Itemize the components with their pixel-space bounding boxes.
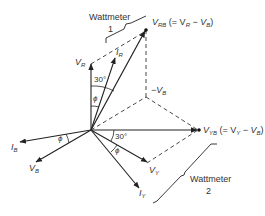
wattmeter2-text: Wattmeter: [190, 174, 231, 184]
vyb-sub: YB: [209, 130, 217, 136]
neg-vb-phasor: [91, 97, 146, 130]
vyb-dot: [197, 128, 201, 132]
phi-right-label: ϕ: [115, 147, 119, 155]
arc-phi-left: [66, 134, 69, 143]
vrb-eq-sub1: R: [186, 22, 190, 28]
vyb-label: VYB (= VY − VB): [203, 126, 264, 135]
vb-sub: B: [35, 168, 39, 174]
angle-30-top-label: 30°: [94, 76, 106, 84]
vb-label: VB: [29, 164, 39, 173]
wattmeter2-number: 2: [206, 187, 211, 196]
ib-sub: B: [14, 147, 18, 153]
phi-left-label: ϕ: [58, 135, 62, 143]
vyb-eq-sub1: Y: [236, 130, 240, 136]
vy-sub: Y: [155, 170, 159, 176]
vrb-eq-sub2: B: [206, 22, 210, 28]
vrb-eq-mid: − V: [190, 17, 206, 27]
vrb-label: VRB (= VR − VB): [152, 18, 213, 27]
phi-top-text: ϕ: [93, 94, 97, 103]
neg-vb-label: −VB: [151, 86, 166, 95]
vy-label: VY: [149, 166, 159, 175]
vyb-eq-close: ): [261, 125, 264, 135]
iy-sub: Y: [142, 193, 146, 199]
phi-left-text: ϕ: [58, 134, 62, 143]
arc-30-right: [111, 130, 114, 141]
vyb-eq-sub2: B: [257, 130, 261, 136]
wattmeter1-text: Wattmeter: [89, 12, 130, 22]
vr-label: VR: [75, 58, 85, 67]
angle-30-right-label: 30°: [115, 133, 127, 141]
vyb-eq-mid: − V: [240, 125, 256, 135]
wattmeter1-label: Wattmeter: [89, 13, 130, 22]
vrb-eq-close: ): [210, 17, 213, 27]
angle-30-top-text: 30°: [94, 75, 106, 84]
neg-vb-sub: B: [162, 90, 166, 96]
phi-top-label: ϕ: [93, 95, 97, 103]
wattmeter2-label: Wattmeter: [190, 175, 231, 184]
ib-label: IB: [11, 143, 18, 152]
vr-sub: R: [81, 62, 85, 68]
ir-sub: R: [119, 52, 123, 58]
angle-30-right-text: 30°: [115, 132, 127, 141]
wattmeter1-num-text: 1: [108, 24, 113, 34]
neg-vb-main: −V: [151, 85, 162, 95]
vrb-sub: RB: [158, 22, 166, 28]
wattmeter2-num-text: 2: [206, 186, 211, 196]
vrb-eq-open: (= V: [166, 17, 185, 27]
phi-right-text: ϕ: [115, 146, 119, 155]
vyb-eq-open: (= V: [217, 125, 236, 135]
vrb-dot: [144, 28, 148, 32]
iy-label: IY: [139, 189, 146, 198]
dash-vy-to-vyb: [147, 130, 198, 163]
ir-label: IR: [116, 48, 123, 57]
wattmeter1-number: 1: [108, 25, 113, 34]
dash-negvb-to-vyb: [146, 97, 198, 130]
arc-phi-top: [91, 106, 99, 107]
arc-30-top: [91, 86, 114, 91]
